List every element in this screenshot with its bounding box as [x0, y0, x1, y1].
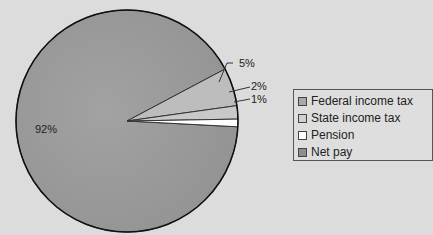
label-federal-pct: 5%	[239, 57, 255, 69]
swatch-icon	[298, 97, 307, 106]
legend-item-state: State income tax	[298, 110, 400, 126]
swatch-icon	[298, 148, 307, 157]
legend-item-federal: Federal income tax	[298, 93, 413, 109]
legend-label: Net pay	[311, 145, 352, 159]
legend-label: State income tax	[311, 111, 400, 125]
label-pension-pct: 1%	[251, 93, 267, 105]
legend: Federal income tax State income tax Pens…	[293, 89, 433, 161]
swatch-icon	[298, 114, 307, 123]
legend-label: Pension	[311, 128, 354, 142]
label-net-pct: 92%	[35, 123, 57, 135]
legend-label: Federal income tax	[311, 94, 413, 108]
legend-item-net-pay: Net pay	[298, 144, 352, 160]
swatch-icon	[298, 131, 307, 140]
label-state-pct: 2%	[251, 80, 267, 92]
legend-item-pension: Pension	[298, 127, 354, 143]
